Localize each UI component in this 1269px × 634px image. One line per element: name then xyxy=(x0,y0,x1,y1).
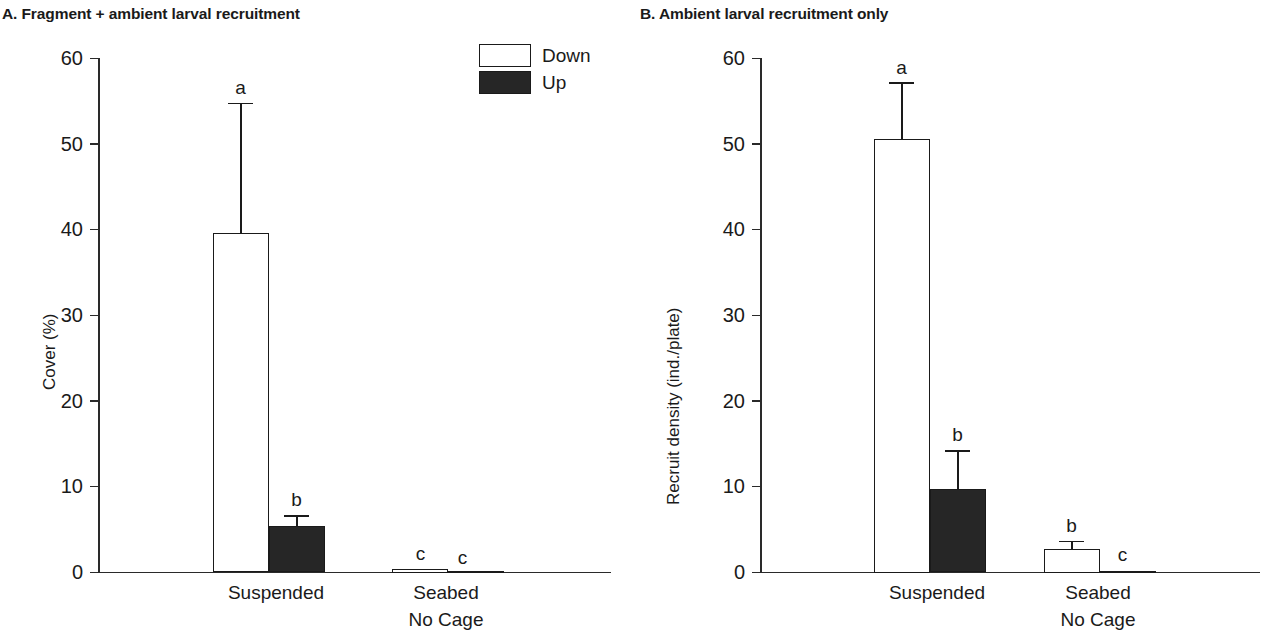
panel-a-y-axis-label: Cover (%) xyxy=(40,313,60,390)
panel-a-tick-label-40: 40 xyxy=(35,219,83,239)
panel-a-bar-seabed-down xyxy=(392,569,448,573)
panel-b-bar-suspended-up xyxy=(930,489,986,572)
panel-b-bar-seabed-down xyxy=(1044,549,1100,573)
panel-a-errorbar-suspended-up xyxy=(296,516,298,527)
panel-b-errorbar-seabed-down xyxy=(1071,542,1073,549)
panel-b-errorbar-suspended-down xyxy=(901,83,903,139)
panel-a-tick-30 xyxy=(90,315,99,317)
panel-b-tick-label-0: 0 xyxy=(697,562,745,582)
panel-b-bar-suspended-down xyxy=(874,139,930,573)
panel-a-siglabel-seabed-up: c xyxy=(442,548,483,567)
panel-b-xcat-suspended: Suspended xyxy=(859,583,1015,602)
panel-b-x-group-label: No Cage xyxy=(1030,610,1166,629)
panel-a-siglabel-suspended-up: b xyxy=(276,490,317,509)
panel-b-tick-label-60: 60 xyxy=(697,48,745,68)
panel-a-x-axis xyxy=(98,572,611,574)
panel-b-siglabel-suspended-up: b xyxy=(937,425,978,444)
panel-a-tick-label-0: 0 xyxy=(35,562,83,582)
panel-b-tick-30 xyxy=(752,315,761,317)
panel-a-errorbar-suspended-down xyxy=(240,103,242,234)
panel-b-errorcap-suspended-up xyxy=(945,450,970,452)
panel-a-xcat-suspended: Suspended xyxy=(198,583,354,602)
panel-b-tick-20 xyxy=(752,400,761,402)
panel-b-tick-50 xyxy=(752,143,761,145)
panel-b-siglabel-seabed-up: c xyxy=(1102,545,1143,564)
panel-a-tick-label-60: 60 xyxy=(35,48,83,68)
legend-label-down: Down xyxy=(542,46,591,65)
legend-swatch-up-icon xyxy=(479,71,531,94)
panel-b-errorcap-suspended-down xyxy=(889,82,914,84)
panel-a-x-group-label: No Cage xyxy=(378,610,514,629)
panel-b-y-axis-label: Recruit density (ind./plate) xyxy=(664,308,684,505)
panel-a-siglabel-suspended-down: a xyxy=(220,78,261,97)
legend-swatch-down-icon xyxy=(479,44,531,67)
legend-item-up: Up xyxy=(479,71,566,94)
panel-a-xcat-seabed: Seabed xyxy=(378,583,514,602)
panel-a-tick-label-30: 30 xyxy=(35,305,83,325)
panel-a-tick-10 xyxy=(90,486,99,488)
panel-a-errorcap-suspended-down xyxy=(228,103,253,105)
panel-a-tick-20 xyxy=(90,400,99,402)
panel-b: B. Ambient larval recruitment only Recru… xyxy=(634,0,1269,634)
panel-b-tick-0 xyxy=(752,572,761,574)
legend-label-up: Up xyxy=(542,73,566,92)
panel-b-tick-60 xyxy=(752,58,761,60)
panel-b-title: B. Ambient larval recruitment only xyxy=(640,5,888,23)
panel-a-tick-label-20: 20 xyxy=(35,391,83,411)
panel-a-tick-50 xyxy=(90,143,99,145)
panel-a-siglabel-seabed-down: c xyxy=(400,544,441,563)
panel-b-tick-label-40: 40 xyxy=(697,219,745,239)
panel-b-tick-label-30: 30 xyxy=(697,305,745,325)
panel-b-errorcap-seabed-down xyxy=(1059,541,1084,543)
panel-a-tick-60 xyxy=(90,58,99,60)
panel-b-siglabel-suspended-down: a xyxy=(881,58,922,77)
panel-b-tick-40 xyxy=(752,229,761,231)
panel-b-x-axis xyxy=(760,572,1260,574)
panel-a-tick-label-10: 10 xyxy=(35,476,83,496)
panel-b-tick-label-50: 50 xyxy=(697,134,745,154)
panel-b-errorbar-suspended-up xyxy=(957,451,959,490)
panel-b-xcat-seabed: Seabed xyxy=(1030,583,1166,602)
panel-a-bar-suspended-down xyxy=(213,233,269,572)
panel-b-tick-label-10: 10 xyxy=(697,476,745,496)
panel-b-bar-seabed-up xyxy=(1100,571,1156,573)
panel-a-bar-seabed-up xyxy=(448,571,504,573)
panel-a-tick-40 xyxy=(90,229,99,231)
legend-item-down: Down xyxy=(479,44,591,67)
panel-a-errorcap-suspended-up xyxy=(284,515,309,517)
panel-b-siglabel-seabed-down: b xyxy=(1051,516,1092,535)
panel-a-tick-0 xyxy=(90,572,99,574)
panel-b-tick-10 xyxy=(752,486,761,488)
panel-a-tick-label-50: 50 xyxy=(35,134,83,154)
panel-a-bar-suspended-up xyxy=(269,526,325,572)
panel-a-title: A. Fragment + ambient larval recruitment xyxy=(2,5,300,23)
panel-b-tick-label-20: 20 xyxy=(697,391,745,411)
panel-a: A. Fragment + ambient larval recruitment… xyxy=(0,0,634,634)
